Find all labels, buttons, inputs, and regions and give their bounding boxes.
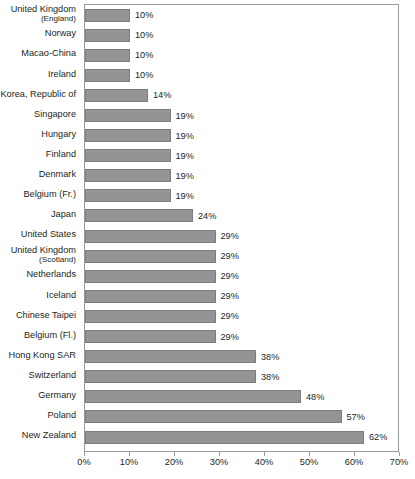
- bar: [85, 431, 364, 444]
- bar: [85, 209, 193, 222]
- bar-row: 10%: [85, 45, 398, 65]
- plot-area: 10%10%10%10%14%19%19%19%19%19%24%29%29%2…: [84, 4, 399, 452]
- category-label-subtext: (Scotland): [39, 256, 76, 264]
- value-axis: 0%10%20%30%40%50%60%70%: [84, 452, 399, 476]
- bar: [85, 89, 148, 102]
- axis-tick-mark: [264, 452, 265, 456]
- category-label-text: Hong Kong SAR: [9, 351, 76, 361]
- category-label-text: Macao-China: [21, 49, 76, 59]
- bar: [85, 69, 130, 82]
- bar-row: 10%: [85, 5, 398, 25]
- category-label-text: Singapore: [34, 110, 76, 120]
- category-label: Norway: [0, 24, 80, 44]
- bar: [85, 370, 256, 383]
- category-label: Singapore: [0, 104, 80, 124]
- bar-row: 48%: [85, 387, 398, 407]
- axis-tick-label: 60%: [345, 457, 363, 467]
- category-label-text: Germany: [38, 391, 76, 401]
- bar: [85, 109, 171, 122]
- bar-value-label: 29%: [221, 291, 239, 301]
- bar: [85, 29, 130, 42]
- category-label: Hong Kong SAR: [0, 346, 80, 366]
- bar-series: 10%10%10%10%14%19%19%19%19%19%24%29%29%2…: [85, 5, 398, 451]
- category-label: Ireland: [0, 64, 80, 84]
- category-label: New Zealand: [0, 426, 80, 446]
- bar-chart: United Kingdom(England)NorwayMacao-China…: [0, 0, 415, 479]
- category-label-text: Chinese Taipei: [16, 311, 76, 321]
- category-label-text: Norway: [45, 29, 76, 39]
- bar: [85, 390, 301, 403]
- bar-value-label: 19%: [176, 111, 194, 121]
- category-label: Korea, Republic of: [0, 84, 80, 104]
- bar: [85, 230, 216, 243]
- bar-row: 19%: [85, 146, 398, 166]
- bar: [85, 410, 342, 423]
- bar-value-label: 29%: [221, 332, 239, 342]
- bar-row: 14%: [85, 85, 398, 105]
- bar-row: 10%: [85, 65, 398, 85]
- bar-row: 38%: [85, 347, 398, 367]
- category-label-text: Belgium (Fl.): [24, 331, 76, 341]
- category-label: Switzerland: [0, 366, 80, 386]
- bar: [85, 49, 130, 62]
- axis-tick-mark: [129, 452, 130, 456]
- axis-tick-label: 30%: [210, 457, 228, 467]
- category-label: United States: [0, 225, 80, 245]
- bar: [85, 189, 171, 202]
- category-label-text: Denmark: [39, 170, 76, 180]
- bar-value-label: 10%: [135, 50, 153, 60]
- axis-tick-mark: [399, 452, 400, 456]
- bar: [85, 330, 216, 343]
- category-label: Belgium (Fr.): [0, 185, 80, 205]
- bar-row: 62%: [85, 427, 398, 447]
- bar: [85, 290, 216, 303]
- bar-row: 19%: [85, 186, 398, 206]
- bar-row: 29%: [85, 226, 398, 246]
- bar-value-label: 57%: [347, 412, 365, 422]
- bar: [85, 9, 130, 22]
- category-label: Finland: [0, 145, 80, 165]
- bar-value-label: 10%: [135, 70, 153, 80]
- axis-tick-label: 70%: [390, 457, 408, 467]
- category-label: United Kingdom(Scotland): [0, 245, 80, 265]
- bar-value-label: 14%: [153, 90, 171, 100]
- category-label: Japan: [0, 205, 80, 225]
- axis-tick-mark: [354, 452, 355, 456]
- category-label-text: Belgium (Fr.): [23, 190, 76, 200]
- category-label-text: Netherlands: [26, 270, 76, 280]
- category-label-text: Hungary: [41, 130, 76, 140]
- bar-value-label: 48%: [306, 392, 324, 402]
- axis-tick-mark: [219, 452, 220, 456]
- category-label-text: Iceland: [46, 291, 76, 301]
- bar-value-label: 19%: [176, 171, 194, 181]
- axis-tick-mark: [309, 452, 310, 456]
- bar: [85, 129, 171, 142]
- category-label: Germany: [0, 386, 80, 406]
- bar-row: 29%: [85, 286, 398, 306]
- category-label: Belgium (Fl.): [0, 326, 80, 346]
- category-label-text: Switzerland: [29, 371, 77, 381]
- category-label: Iceland: [0, 285, 80, 305]
- category-label: Chinese Taipei: [0, 305, 80, 325]
- bar-value-label: 10%: [135, 30, 153, 40]
- category-label-subtext: (England): [41, 15, 76, 23]
- category-label-text: Finland: [46, 150, 76, 160]
- bar-row: 29%: [85, 327, 398, 347]
- bar-row: 29%: [85, 266, 398, 286]
- bar: [85, 310, 216, 323]
- category-label: Netherlands: [0, 265, 80, 285]
- bar-value-label: 38%: [261, 352, 279, 362]
- bar-value-label: 19%: [176, 131, 194, 141]
- bar-value-label: 62%: [369, 432, 387, 442]
- category-label-text: Ireland: [48, 70, 76, 80]
- bar-row: 38%: [85, 367, 398, 387]
- category-label: Denmark: [0, 165, 80, 185]
- category-label: Hungary: [0, 125, 80, 145]
- bar-value-label: 19%: [176, 191, 194, 201]
- category-label: Macao-China: [0, 44, 80, 64]
- axis-tick-label: 40%: [255, 457, 273, 467]
- bar: [85, 169, 171, 182]
- bar-row: 10%: [85, 25, 398, 45]
- bar-value-label: 29%: [221, 231, 239, 241]
- bar-value-label: 19%: [176, 151, 194, 161]
